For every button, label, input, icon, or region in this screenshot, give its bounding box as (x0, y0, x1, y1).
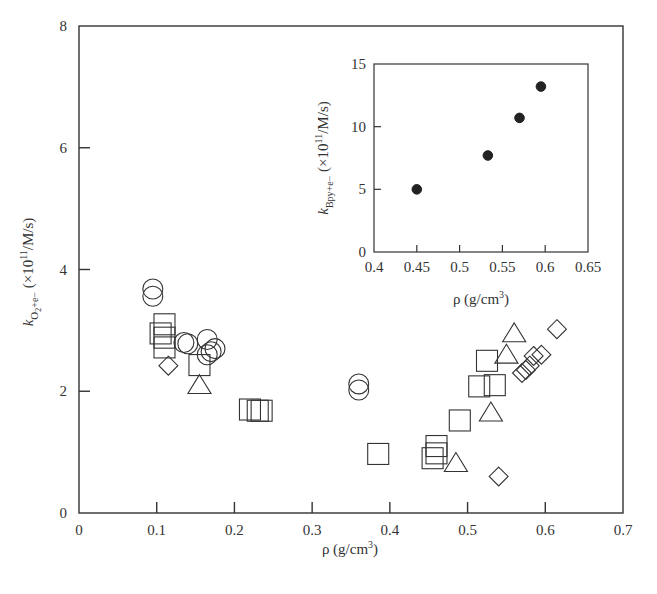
inset-plot-markers (412, 82, 546, 194)
y-tick-label: 8 (60, 18, 68, 34)
triangle-marker (188, 375, 211, 394)
x-tick-label: 0.4 (380, 522, 399, 538)
y-tick-label: 15 (351, 56, 366, 72)
filled-circle-marker (412, 185, 422, 195)
filled-circle-marker (536, 82, 546, 92)
square-marker (484, 375, 505, 396)
x-tick-label: 0.5 (450, 259, 469, 275)
y-tick-label: 0 (60, 505, 68, 521)
x-tick-label: 0.6 (536, 259, 555, 275)
y-tick-label: 0 (359, 244, 367, 260)
diamond-marker (159, 356, 178, 375)
x-tick-label: 0.55 (489, 259, 515, 275)
x-tick-label: 0.1 (147, 522, 166, 538)
y-tick-label: 6 (60, 140, 68, 156)
diamond-marker (489, 467, 508, 486)
x-tick-label: 0.65 (575, 259, 601, 275)
y-tick-label: 4 (60, 262, 68, 278)
circle-marker (349, 374, 369, 394)
x-tick-label: 0.7 (614, 522, 633, 538)
triangle-marker (495, 344, 518, 363)
diamond-marker (516, 360, 535, 379)
circle-marker (174, 333, 194, 353)
main-plot-axes: 00.10.20.30.40.50.60.702468 (60, 18, 633, 538)
square-marker (154, 314, 175, 335)
y-tick-label: 10 (351, 119, 366, 135)
circle-marker (349, 380, 369, 400)
triangle-marker (479, 402, 502, 421)
square-marker (150, 323, 171, 344)
square-marker (247, 400, 268, 421)
main-y-axis-label: kO2+e− (×1011/M/s) (18, 218, 43, 327)
y-tick-label: 2 (60, 383, 68, 399)
square-marker (154, 337, 175, 358)
scatter-figure: 00.10.20.30.40.50.60.702468 0.40.450.50.… (0, 0, 657, 594)
triangle-marker (444, 453, 467, 472)
square-marker (477, 350, 498, 371)
square-marker (426, 436, 447, 457)
square-marker (449, 410, 470, 431)
square-marker (251, 400, 272, 421)
inset-plot-axes: 0.40.450.50.550.60.65051015 (351, 56, 601, 275)
x-tick-label: 0.5 (458, 522, 477, 538)
inset-y-axis-label: kBpy+e− (×1011/M/s) (313, 101, 335, 214)
square-marker (426, 443, 447, 464)
diamond-marker (513, 364, 532, 383)
plot-frame (374, 64, 588, 252)
y-tick-label: 5 (359, 181, 367, 197)
filled-circle-marker (483, 151, 493, 161)
x-tick-label: 0.6 (536, 522, 555, 538)
circle-marker (178, 334, 198, 354)
circle-marker (197, 330, 217, 350)
square-marker (154, 327, 175, 348)
square-marker (368, 443, 389, 464)
x-tick-label: 0.2 (225, 522, 244, 538)
x-tick-label: 0.45 (404, 259, 430, 275)
square-marker (422, 448, 443, 469)
main-plot-markers (143, 279, 567, 486)
x-tick-label: 0.3 (303, 522, 322, 538)
square-marker (239, 399, 260, 420)
inset-x-axis-label: ρ (g/cm3) (453, 289, 509, 308)
diamond-marker (547, 320, 566, 339)
filled-circle-marker (515, 113, 525, 123)
x-tick-label: 0.4 (365, 259, 384, 275)
main-x-axis-label: ρ (g/cm3) (322, 539, 378, 558)
x-tick-label: 0 (75, 522, 83, 538)
square-marker (469, 376, 490, 397)
triangle-marker (503, 323, 526, 342)
